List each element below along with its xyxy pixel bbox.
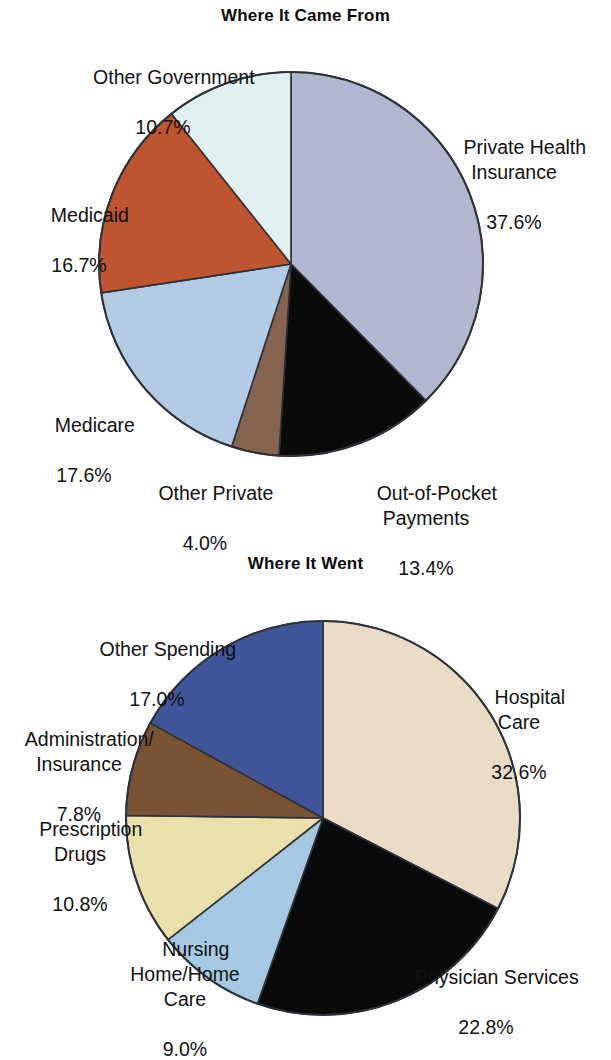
slice-label-private-health-insurance-name: Private Health Insurance xyxy=(464,136,586,183)
slice-label-administration-insurance-name: Administration/ Insurance xyxy=(25,728,154,775)
slice-label-private-health-insurance-pct: 37.6% xyxy=(424,210,604,235)
slice-label-physician-services: Physician Services 22.8% xyxy=(368,940,604,1060)
slice-label-prescription-drugs-name: Prescription Drugs xyxy=(39,818,142,865)
slice-label-physician-services-name: Physician Services xyxy=(415,966,579,988)
slice-label-out-of-pocket-payments-name: Out-of-Pocket Payments xyxy=(377,482,497,529)
pie-chart-where-it-came-from: Where It Came From Other Government 10.7… xyxy=(0,0,611,540)
slice-label-other-spending-name: Other Spending xyxy=(100,638,237,660)
slice-label-hospital-care: Hospital Care 32.6% xyxy=(440,660,598,835)
slice-label-other-government-pct: 10.7% xyxy=(38,115,288,140)
pie-chart-where-it-went: Where It Went Other Spending 17.0% Admin… xyxy=(0,540,611,1046)
slice-label-hospital-care-name: Hospital Care xyxy=(495,686,565,733)
slice-label-nursing-home-home-care-pct: 9.0% xyxy=(84,1037,286,1060)
slice-label-private-health-insurance: Private Health Insurance 37.6% xyxy=(424,110,604,285)
slice-label-nursing-home-home-care-name: Nursing Home/Home Care xyxy=(130,938,239,1010)
slice-label-other-private-name: Other Private xyxy=(158,482,273,504)
slice-label-hospital-care-pct: 32.6% xyxy=(440,760,598,785)
slice-label-other-government-name: Other Government xyxy=(93,66,254,88)
slice-label-physician-services-pct: 22.8% xyxy=(368,1015,604,1040)
slice-label-medicaid-pct: 16.7% xyxy=(8,253,150,278)
slice-label-other-government: Other Government 10.7% xyxy=(38,40,288,190)
slice-label-medicare-name: Medicare xyxy=(55,414,135,436)
slice-label-medicaid: Medicaid 16.7% xyxy=(8,178,150,328)
slice-label-medicaid-name: Medicaid xyxy=(51,204,129,226)
slice-label-nursing-home-home-care: Nursing Home/Home Care 9.0% xyxy=(84,912,286,1060)
